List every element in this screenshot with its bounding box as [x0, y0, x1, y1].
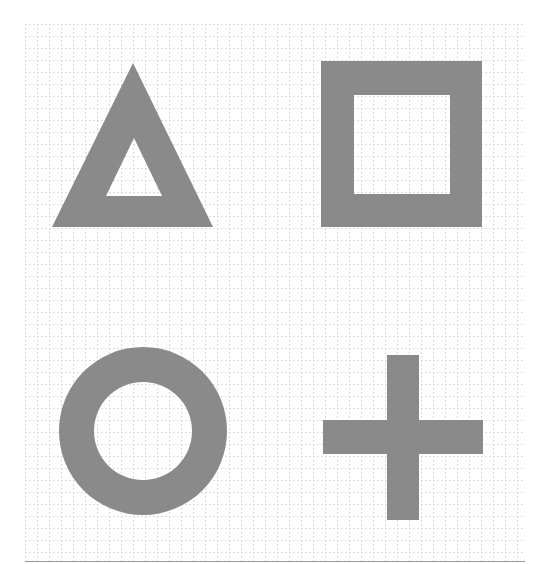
shapes-canvas	[0, 0, 549, 564]
triangle-outline-icon	[52, 63, 213, 227]
circle-ring-icon	[59, 347, 227, 515]
cross-horizontal-bar	[323, 420, 483, 454]
cross-plus-icon	[323, 355, 483, 520]
